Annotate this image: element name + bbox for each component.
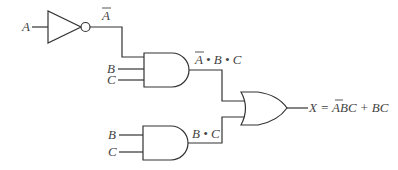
and1-to-or-wire bbox=[189, 70, 245, 101]
input-a-label: A bbox=[21, 19, 30, 34]
svg-text:X = ABC + BC: X = ABC + BC bbox=[308, 100, 389, 115]
logic-circuit-diagram: A A B C A • B • C B C B • C X = ABC + BC bbox=[0, 0, 398, 170]
not-to-and1-wire bbox=[90, 27, 144, 57]
not-gate bbox=[48, 11, 90, 43]
svg-text:A: A bbox=[101, 8, 110, 23]
or-gate bbox=[241, 92, 287, 125]
and-gate-lower bbox=[143, 126, 188, 160]
and1-input-c-label: C bbox=[107, 72, 116, 87]
and2-output-label: B • C bbox=[192, 126, 220, 141]
svg-text:A • B • C: A • B • C bbox=[194, 52, 242, 67]
not-gate-triangle bbox=[48, 11, 81, 43]
and2-input-c-label: C bbox=[108, 144, 117, 159]
and2-input-b-label: B bbox=[108, 127, 116, 142]
output-expression: X = ABC + BC bbox=[308, 100, 389, 115]
and1-output-label: A • B • C bbox=[194, 52, 242, 67]
not-output-label: A bbox=[101, 8, 111, 23]
and-gate-upper bbox=[144, 53, 189, 87]
not-gate-bubble bbox=[81, 23, 90, 32]
